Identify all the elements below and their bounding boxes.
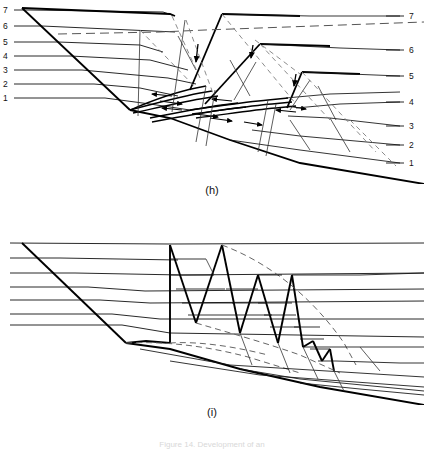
panel-h-right-label-1: 1 [409,158,414,168]
panel-h-right-label-7: 7 [409,11,414,21]
panel-i-footwall-layers [140,273,424,395]
panel-i-basal-detachment [22,243,424,405]
panel-h-cutoff-lines [138,20,350,156]
panel-h-left-label-5: 5 [3,37,8,47]
figure-container: 7 6 5 4 3 2 1 7 6 5 4 3 2 1 (h) [0,0,424,449]
panel-h-right-labels: 7 6 5 4 3 2 1 [409,11,414,168]
panel-i-dashed-envelope [126,245,356,373]
panel-h-right-label-3: 3 [409,121,414,131]
panel-h-left-label-3: 3 [3,65,8,75]
panel-h-right-label-6: 6 [409,45,414,55]
panel-h-left-label-1: 1 [3,93,8,103]
figure-caption-text: Figure 14. Development of an [0,440,424,449]
panel-h-left-label-6: 6 [3,21,8,31]
panel-h-left-labels: 7 6 5 4 3 2 1 [3,5,8,103]
panel-h-right-label-5: 5 [409,71,414,81]
panel-h-right-label-4: 4 [409,97,414,107]
panel-i-caption: (i) [0,406,424,418]
panel-h-dashed-marker-horizon [58,22,424,34]
panel-h-caption: (h) [0,184,424,196]
panel-h-right-label-2: 2 [409,140,414,150]
panel-h-left-label-4: 4 [3,51,8,61]
panel-h-right-tick-lines [386,16,404,163]
panel-h-upper-surface [22,8,424,184]
panel-h-diagram: 7 6 5 4 3 2 1 7 6 5 4 3 2 1 [0,0,424,184]
panel-h-left-label-7: 7 [3,5,8,15]
panel-i-diagram [0,215,424,405]
panel-h-left-label-2: 2 [3,79,8,89]
panel-h-left-tick-lines [14,10,105,98]
panel-h-footwall-layers [222,14,400,163]
